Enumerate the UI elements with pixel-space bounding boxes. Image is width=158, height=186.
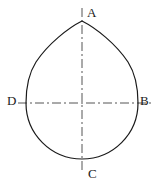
vertex-label-c: C [88,167,97,180]
vertex-label-a: A [87,6,96,19]
figure-drawing [0,0,158,186]
vertex-label-b: B [140,94,149,107]
vertex-label-d: D [7,94,16,107]
figure-container: A B C D [0,0,158,186]
drawing-background [0,0,158,186]
